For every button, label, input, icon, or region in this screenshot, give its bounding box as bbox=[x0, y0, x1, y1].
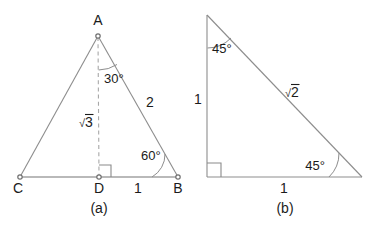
segment-AC bbox=[20, 36, 98, 177]
segment-AD-altitude bbox=[98, 37, 99, 176]
vertex-dot-A bbox=[96, 34, 100, 38]
radicand-sqrt3: 3 bbox=[85, 114, 93, 130]
vertex-label-B: B bbox=[173, 180, 182, 196]
vertex-dot-D bbox=[97, 175, 101, 179]
segment-AB bbox=[98, 36, 178, 177]
angle-arc-bottom-45 bbox=[329, 153, 339, 177]
vertex-label-A: A bbox=[93, 12, 103, 28]
angle-label-top-45: 45° bbox=[212, 41, 232, 56]
vertex-dot-C bbox=[18, 175, 22, 179]
side-label-hypotenuse-sqrt2: √ 2 bbox=[285, 84, 300, 100]
angle-label-30: 30° bbox=[104, 71, 124, 86]
side-label-AD-sqrt3: √ 3 bbox=[79, 114, 94, 130]
side-label-AB-2: 2 bbox=[146, 94, 154, 110]
angle-label-bottom-45: 45° bbox=[305, 158, 325, 173]
geometry-figure-canvas: A C D B 30° 60° 2 √ 3 1 (a) 45° 45° bbox=[0, 0, 378, 227]
right-angle-marker-corner bbox=[207, 163, 221, 177]
side-label-DB-1: 1 bbox=[134, 180, 142, 196]
side-label-horizontal-1: 1 bbox=[280, 180, 288, 196]
vertex-label-D: D bbox=[94, 180, 104, 196]
side-label-vertical-1: 1 bbox=[194, 91, 202, 107]
angle-label-60: 60° bbox=[141, 148, 161, 163]
figure-a-group: A C D B 30° 60° 2 √ 3 1 (a) bbox=[13, 12, 183, 216]
caption-figure-a: (a) bbox=[90, 200, 107, 216]
vertex-label-C: C bbox=[13, 180, 23, 196]
figure-b-group: 45° 45° 1 1 √ 2 (b) bbox=[194, 15, 362, 216]
caption-figure-b: (b) bbox=[276, 200, 293, 216]
vertex-dot-B bbox=[176, 175, 180, 179]
radicand-sqrt2: 2 bbox=[291, 84, 299, 100]
